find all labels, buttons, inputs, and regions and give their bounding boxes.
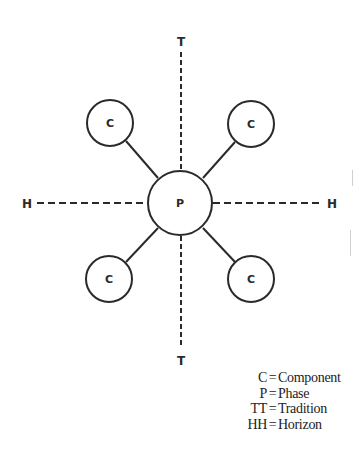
tradition-label-top: T	[177, 35, 186, 49]
component-node-label: C	[105, 273, 113, 286]
scan-artifact	[352, 170, 353, 186]
component-node-bottom-left: C	[86, 256, 132, 302]
component-node-label: C	[106, 117, 114, 130]
phase-node-label: P	[176, 197, 184, 210]
component-node-label: C	[247, 118, 255, 131]
legend: C = Component P = Phase TT = Tradition H…	[232, 370, 341, 432]
legend-value: Tradition	[278, 401, 327, 417]
horizon-label-left: H	[22, 197, 32, 211]
legend-item-horizon: HH = Horizon	[232, 417, 341, 433]
legend-key: HH	[232, 417, 267, 433]
legend-item-component: C = Component	[232, 370, 341, 386]
legend-key: C	[232, 370, 267, 386]
legend-value: Phase	[278, 386, 309, 402]
legend-equals: =	[267, 386, 278, 402]
connector-bottom-right	[203, 228, 235, 262]
legend-key: P	[232, 386, 267, 402]
tradition-label-bottom: T	[177, 354, 186, 368]
horizon-label-right: H	[327, 197, 337, 211]
legend-item-tradition: TT = Tradition	[232, 401, 341, 417]
scan-artifact	[350, 230, 351, 256]
connector-top-right	[203, 142, 235, 178]
legend-value: Component	[278, 370, 341, 386]
component-node-top-left: C	[87, 100, 133, 146]
component-node-top-right: C	[228, 101, 274, 147]
legend-value: Horizon	[278, 417, 322, 433]
legend-equals: =	[267, 370, 278, 386]
legend-item-phase: P = Phase	[232, 386, 341, 402]
component-node-label: C	[247, 273, 255, 286]
legend-equals: =	[267, 401, 278, 417]
component-node-bottom-right: C	[228, 256, 274, 302]
legend-key: TT	[232, 401, 267, 417]
phase-node: P	[148, 171, 212, 235]
legend-equals: =	[267, 417, 278, 433]
connector-bottom-left	[126, 228, 158, 262]
connector-top-left	[126, 141, 158, 178]
